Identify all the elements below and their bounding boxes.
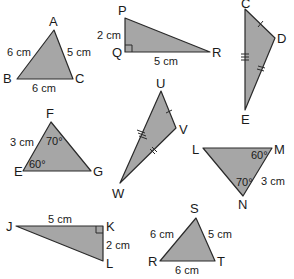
triangle-uvw: U V W bbox=[112, 76, 188, 201]
vertex-label-e: E bbox=[241, 112, 250, 127]
triangles-diagram: A B C 6 cm 5 cm 6 cm P Q R 2 cm 5 cm C D… bbox=[0, 0, 294, 279]
side-label-ac: 5 cm bbox=[67, 46, 91, 58]
angle-label-m: 60° bbox=[251, 149, 268, 161]
vertex-label-t: T bbox=[217, 254, 225, 269]
triangle-rst: S R T 6 cm 5 cm 6 cm bbox=[148, 201, 232, 276]
vertex-label-r: R bbox=[212, 45, 221, 60]
vertex-label-r2: R bbox=[148, 254, 157, 269]
side-label-st: 5 cm bbox=[208, 228, 232, 240]
angle-label-f: 70° bbox=[46, 135, 63, 147]
vertex-label-q: Q bbox=[112, 45, 122, 60]
vertex-label-b: B bbox=[3, 71, 12, 86]
side-label-pq: 2 cm bbox=[97, 29, 121, 41]
side-label-rs: 6 cm bbox=[150, 228, 174, 240]
angle-label-n: 70° bbox=[236, 176, 253, 188]
triangle-pqr-shape bbox=[125, 18, 210, 52]
vertex-label-k: K bbox=[106, 219, 115, 234]
side-label-jk: 5 cm bbox=[48, 213, 72, 225]
angle-label-e: 60° bbox=[29, 158, 46, 170]
side-label-qr: 5 cm bbox=[154, 55, 178, 67]
vertex-label-c: C bbox=[75, 71, 84, 86]
triangle-uvw-shape bbox=[120, 91, 176, 183]
vertex-label-d: D bbox=[277, 31, 286, 46]
vertex-label-s: S bbox=[190, 201, 199, 216]
side-label-bc: 6 cm bbox=[32, 82, 56, 94]
vertex-label-n: N bbox=[238, 197, 247, 212]
vertex-label-u: U bbox=[156, 76, 165, 91]
side-label-kl: 2 cm bbox=[106, 239, 130, 251]
vertex-label-l2: L bbox=[106, 256, 113, 271]
vertex-label-j: J bbox=[6, 219, 13, 234]
side-label-ab: 6 cm bbox=[7, 46, 31, 58]
side-label-mn: 3 cm bbox=[261, 175, 285, 187]
vertex-label-m: M bbox=[274, 142, 285, 157]
triangle-jkl-shape bbox=[16, 226, 103, 261]
triangle-jkl: J K L 5 cm 2 cm bbox=[6, 213, 130, 271]
vertex-label-l: L bbox=[192, 142, 199, 157]
side-label-ef: 3 cm bbox=[10, 136, 34, 148]
triangle-lmn: L M N 60° 70° 3 cm bbox=[192, 142, 285, 212]
vertex-label-c2: C bbox=[241, 0, 250, 11]
vertex-label-g: G bbox=[93, 164, 103, 179]
triangle-pqr: P Q R 2 cm 5 cm bbox=[97, 3, 221, 67]
vertex-label-v: V bbox=[179, 122, 188, 137]
vertex-label-p: P bbox=[118, 3, 127, 18]
triangle-abc: A B C 6 cm 5 cm 6 cm bbox=[3, 14, 91, 94]
triangle-cde: C D E bbox=[241, 0, 286, 127]
vertex-label-a: A bbox=[49, 14, 58, 29]
side-label-rt: 6 cm bbox=[175, 264, 199, 276]
vertex-label-w: W bbox=[112, 186, 125, 201]
triangle-efg: F E G 3 cm 70° 60° bbox=[10, 106, 103, 179]
vertex-label-e2: E bbox=[14, 164, 23, 179]
vertex-label-f: F bbox=[46, 106, 54, 121]
